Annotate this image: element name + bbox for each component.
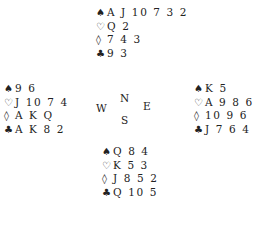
north-clubs-row: ♣ 9 3 xyxy=(96,47,188,61)
heart-icon: ♡ xyxy=(102,159,113,173)
east-spades: K 5 xyxy=(205,82,228,96)
south-diamonds-row: ◊ J 8 5 2 xyxy=(102,172,158,186)
east-spades-row: ♠ K 5 xyxy=(194,82,254,96)
west-hearts-row: ♡ J 10 7 4 xyxy=(4,96,69,110)
compass-north: N xyxy=(120,92,129,104)
east-clubs: J 7 6 4 xyxy=(205,123,250,137)
south-hearts: K 5 3 xyxy=(113,159,149,173)
west-spades: 9 6 xyxy=(15,82,37,96)
north-hearts: Q 2 xyxy=(107,20,130,34)
spade-icon: ♠ xyxy=(102,145,113,159)
compass-south: S xyxy=(121,114,128,126)
spade-icon: ♠ xyxy=(194,82,205,96)
west-diamonds-row: ◊ A K Q xyxy=(4,109,69,123)
south-spades-row: ♠ Q 8 4 xyxy=(102,145,158,159)
east-clubs-row: ♣ J 7 6 4 xyxy=(194,123,254,137)
west-clubs: A K 8 2 xyxy=(15,123,65,137)
west-spades-row: ♠ 9 6 xyxy=(4,82,69,96)
club-icon: ♣ xyxy=(194,123,205,137)
south-hearts-row: ♡ K 5 3 xyxy=(102,159,158,173)
compass-east: E xyxy=(143,100,151,112)
south-diamonds: J 8 5 2 xyxy=(113,172,158,186)
heart-icon: ♡ xyxy=(194,96,205,110)
east-hearts-row: ♡ A 9 8 6 xyxy=(194,96,254,110)
club-icon: ♣ xyxy=(102,186,113,200)
north-spades-row: ♠ A J 10 7 3 2 xyxy=(96,6,188,20)
spade-icon: ♠ xyxy=(4,82,15,96)
west-clubs-row: ♣ A K 8 2 xyxy=(4,123,69,137)
north-spades: A J 10 7 3 2 xyxy=(107,6,188,20)
east-hearts: A 9 8 6 xyxy=(205,96,254,110)
club-icon: ♣ xyxy=(4,123,15,137)
heart-icon: ♡ xyxy=(96,20,107,34)
diamond-icon: ◊ xyxy=(194,109,205,123)
compass-west: W xyxy=(96,102,107,114)
north-clubs: 9 3 xyxy=(107,47,129,61)
east-diamonds-row: ◊ 10 9 6 xyxy=(194,109,254,123)
north-hearts-row: ♡ Q 2 xyxy=(96,20,188,34)
north-diamonds: 7 4 3 xyxy=(107,33,142,47)
north-diamonds-row: ◊ 7 4 3 xyxy=(96,33,188,47)
south-clubs: Q 10 5 xyxy=(113,186,158,200)
spade-icon: ♠ xyxy=(96,6,107,20)
diamond-icon: ◊ xyxy=(4,109,15,123)
diamond-icon: ◊ xyxy=(96,33,107,47)
west-hearts: J 10 7 4 xyxy=(15,96,69,110)
west-hand: ♠ 9 6 ♡ J 10 7 4 ◊ A K Q ♣ A K 8 2 xyxy=(4,82,69,136)
south-spades: Q 8 4 xyxy=(113,145,150,159)
north-hand: ♠ A J 10 7 3 2 ♡ Q 2 ◊ 7 4 3 ♣ 9 3 xyxy=(96,6,188,60)
diamond-icon: ◊ xyxy=(102,172,113,186)
east-hand: ♠ K 5 ♡ A 9 8 6 ◊ 10 9 6 ♣ J 7 6 4 xyxy=(194,82,254,136)
east-diamonds: 10 9 6 xyxy=(205,109,248,123)
south-clubs-row: ♣ Q 10 5 xyxy=(102,186,158,200)
south-hand: ♠ Q 8 4 ♡ K 5 3 ◊ J 8 5 2 ♣ Q 10 5 xyxy=(102,145,158,199)
west-diamonds: A K Q xyxy=(15,109,54,123)
club-icon: ♣ xyxy=(96,47,107,61)
heart-icon: ♡ xyxy=(4,96,15,110)
